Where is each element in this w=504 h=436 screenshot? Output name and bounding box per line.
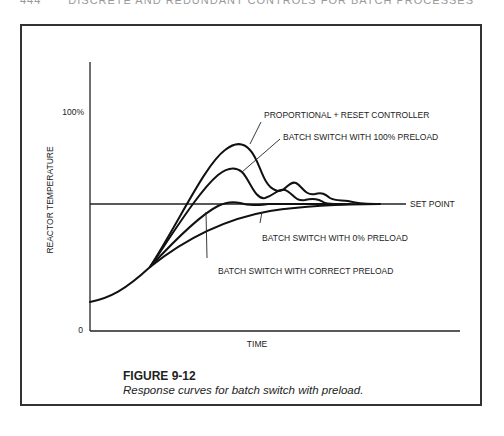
- y-axis-label: REACTOR TEMPERATURE: [45, 146, 55, 254]
- y-tick-100: 100%: [62, 107, 84, 117]
- x-axis-label: TIME: [247, 339, 268, 349]
- response-chart: 100% 0 TIME REACTOR TEMPERATURE PROPORTI…: [0, 0, 504, 436]
- figure-caption: Response curves for batch switch with pr…: [123, 384, 363, 396]
- axes: [90, 62, 460, 331]
- curves: [90, 144, 380, 302]
- label-batch-0pct: BATCH SWITCH WITH 0% PRELOAD: [262, 233, 408, 243]
- label-batch-100pct: BATCH SWITCH WITH 100% PRELOAD: [283, 132, 438, 142]
- label-batch-correct: BATCH SWITCH WITH CORRECT PRELOAD: [218, 266, 393, 276]
- label-proportional-reset: PROPORTIONAL + RESET CONTROLLER: [264, 110, 429, 120]
- label-set-point: SET POINT: [410, 199, 455, 209]
- figure-number: FIGURE 9-12: [123, 369, 196, 383]
- curve-common-start: [90, 267, 150, 302]
- y-tick-0: 0: [78, 325, 83, 335]
- leader-bsc: [206, 212, 207, 258]
- leader-bs100: [242, 139, 280, 172]
- leader-pr: [250, 122, 261, 144]
